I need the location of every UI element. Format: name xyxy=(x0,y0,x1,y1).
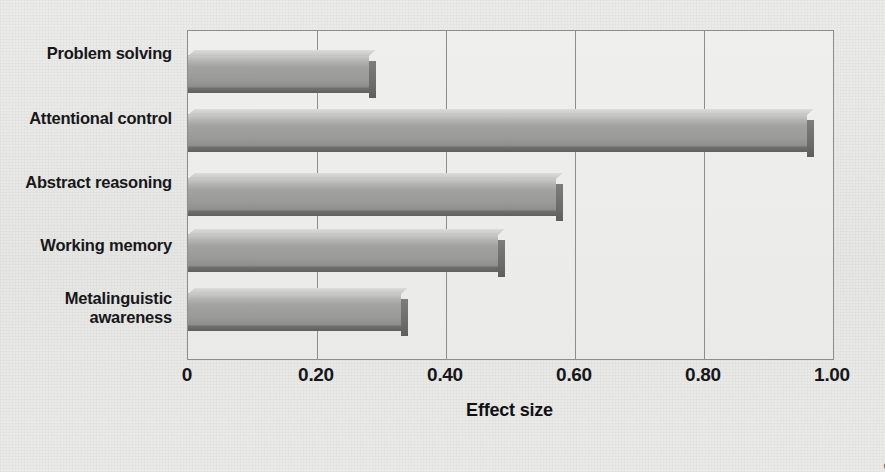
category-label-problem-solving: Problem solving xyxy=(0,44,172,63)
category-label-line: Metalinguistic xyxy=(0,289,172,308)
gridline-080 xyxy=(704,31,705,359)
gridline-060 xyxy=(575,31,576,359)
x-tick-100: 1.00 xyxy=(814,364,850,386)
category-label-line: Attentional control xyxy=(0,109,172,128)
category-label-attentional-control: Attentional control xyxy=(0,109,172,128)
bar-abstract-reasoning[interactable] xyxy=(188,178,556,216)
category-label-abstract-reasoning: Abstract reasoning xyxy=(0,173,172,192)
copyright-credit: © Cengage Learning 2013 xyxy=(881,462,885,472)
x-axis-tick-labels: 0 0.20 0.40 0.60 0.80 1.00 xyxy=(187,364,832,392)
x-tick-040: 0.40 xyxy=(427,364,463,386)
x-tick-0: 0 xyxy=(182,364,192,386)
category-label-line: awareness xyxy=(0,308,172,327)
bar-working-memory[interactable] xyxy=(188,234,498,272)
category-label-line: Problem solving xyxy=(0,44,172,63)
category-label-working-memory: Working memory xyxy=(0,236,172,255)
x-tick-080: 0.80 xyxy=(685,364,721,386)
bar-problem-solving[interactable] xyxy=(188,55,369,93)
x-axis-title: Effect size xyxy=(187,400,832,421)
x-tick-060: 0.60 xyxy=(556,364,592,386)
category-label-line: Abstract reasoning xyxy=(0,173,172,192)
category-label-metalinguistic-awareness: Metalinguistic awareness xyxy=(0,289,172,327)
category-label-line: Working memory xyxy=(0,236,172,255)
bar-attentional-control[interactable] xyxy=(188,114,807,152)
category-axis-labels: Problem solving Attentional control Abst… xyxy=(0,25,180,355)
x-tick-020: 0.20 xyxy=(298,364,334,386)
bar-metalinguistic-awareness[interactable] xyxy=(188,293,401,331)
plot-area xyxy=(187,30,834,360)
